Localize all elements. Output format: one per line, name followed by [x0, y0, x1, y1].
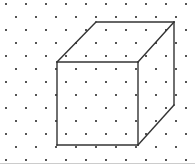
- grid-dot: [135, 146, 137, 148]
- grid-dot: [75, 16, 77, 18]
- grid-dot: [95, 120, 97, 122]
- grid-dot: [85, 133, 87, 135]
- grid-dot: [95, 146, 97, 148]
- grid-dot: [65, 3, 67, 5]
- grid-dot: [175, 94, 177, 96]
- grid-dot: [155, 94, 157, 96]
- grid-dot: [25, 3, 27, 5]
- grid-dot: [25, 107, 27, 109]
- grid-dot: [5, 3, 7, 5]
- grid-dot: [55, 146, 57, 148]
- grid-dot: [115, 16, 117, 18]
- grid-dot: [45, 159, 47, 161]
- grid-dot: [75, 94, 77, 96]
- grid-dot: [35, 120, 37, 122]
- grid-dot: [85, 107, 87, 109]
- grid-dot: [5, 29, 7, 31]
- grid-dot: [45, 29, 47, 31]
- grid-dot: [25, 133, 27, 135]
- grid-dot: [115, 146, 117, 148]
- grid-dot: [175, 42, 177, 44]
- grid-dot: [115, 120, 117, 122]
- grid-dot: [5, 55, 7, 57]
- grid-dot: [25, 81, 27, 83]
- grid-dot: [65, 29, 67, 31]
- grid-dot: [15, 42, 17, 44]
- grid-dot: [65, 55, 67, 57]
- grid-dot: [185, 159, 187, 161]
- grid-dot: [125, 81, 127, 83]
- grid-dot: [35, 42, 37, 44]
- grid-dot: [145, 81, 147, 83]
- grid-dot: [105, 29, 107, 31]
- grid-dot: [85, 159, 87, 161]
- grid-dot: [145, 3, 147, 5]
- grid-dot: [25, 55, 27, 57]
- grid-dot: [105, 81, 107, 83]
- grid-dot: [175, 120, 177, 122]
- grid-dot: [165, 55, 167, 57]
- grid-dot: [165, 81, 167, 83]
- grid-dot: [155, 146, 157, 148]
- grid-dot: [35, 68, 37, 70]
- grid-dot: [105, 107, 107, 109]
- grid-dot: [175, 68, 177, 70]
- grid-dot: [15, 146, 17, 148]
- grid-dot: [185, 55, 187, 57]
- grid-dot: [35, 146, 37, 148]
- grid-dot: [65, 133, 67, 135]
- grid-dot: [185, 107, 187, 109]
- grid-dot: [115, 42, 117, 44]
- grid-dot: [85, 3, 87, 5]
- grid-dot: [165, 133, 167, 135]
- grid-dot: [75, 146, 77, 148]
- grid-dot: [135, 68, 137, 70]
- grid-dot: [105, 133, 107, 135]
- grid-dot: [175, 16, 177, 18]
- grid-dot: [115, 94, 117, 96]
- grid-dot: [35, 16, 37, 18]
- grid-dot: [155, 16, 157, 18]
- grid-dot: [95, 68, 97, 70]
- grid-dot: [75, 68, 77, 70]
- grid-dot: [105, 159, 107, 161]
- grid-dot: [185, 133, 187, 135]
- cube-figure-svg: [0, 0, 195, 164]
- grid-dot: [125, 159, 127, 161]
- grid-dot: [125, 29, 127, 31]
- grid-dot: [165, 3, 167, 5]
- grid-dot: [45, 55, 47, 57]
- grid-dot: [45, 133, 47, 135]
- grid-dot: [35, 94, 37, 96]
- grid-dot: [185, 3, 187, 5]
- grid-dot: [5, 107, 7, 109]
- grid-dot: [5, 133, 7, 135]
- grid-dot: [145, 55, 147, 57]
- grid-dot: [125, 55, 127, 57]
- grid-dot: [85, 81, 87, 83]
- grid-dot: [65, 81, 67, 83]
- grid-dot: [145, 107, 147, 109]
- grid-dot: [105, 3, 107, 5]
- grid-dot: [115, 68, 117, 70]
- grid-dot: [145, 29, 147, 31]
- grid-dot: [165, 107, 167, 109]
- figure-canvas: [0, 0, 195, 164]
- grid-dot: [25, 29, 27, 31]
- grid-dot: [15, 68, 17, 70]
- grid-dot: [135, 120, 137, 122]
- grid-dot: [95, 16, 97, 18]
- grid-dot: [135, 42, 137, 44]
- grid-dot: [135, 94, 137, 96]
- grid-dot: [125, 3, 127, 5]
- grid-dot: [165, 159, 167, 161]
- grid-dot: [75, 120, 77, 122]
- grid-dot: [155, 120, 157, 122]
- grid-dot: [125, 133, 127, 135]
- grid-dot: [105, 55, 107, 57]
- grid-dot: [45, 3, 47, 5]
- grid-dot: [65, 107, 67, 109]
- grid-dot: [175, 146, 177, 148]
- grid-dot: [25, 159, 27, 161]
- grid-dot: [145, 159, 147, 161]
